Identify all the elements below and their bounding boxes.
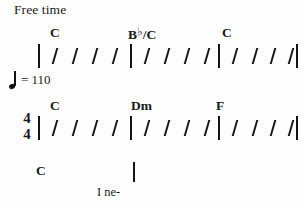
chord-symbol: Dm	[131, 99, 152, 113]
rhythm-slash	[184, 120, 191, 136]
rhythm-slash	[204, 48, 211, 64]
rhythm-slash	[270, 120, 277, 136]
rhythm-slash	[112, 48, 119, 64]
rhythm-slash	[252, 120, 259, 136]
chord-symbol: F	[216, 99, 224, 113]
chord-symbol: C	[36, 164, 46, 178]
rhythm-slash	[164, 120, 171, 136]
rhythm-slash	[232, 48, 239, 64]
quarter-note-icon	[9, 72, 18, 89]
rhythm-slash	[72, 48, 79, 64]
rhythm-slash	[52, 48, 59, 64]
rhythm-slash	[164, 48, 171, 64]
expression-free-time: Free time	[14, 2, 66, 18]
rhythm-slash	[144, 48, 151, 64]
chord-symbol: C	[50, 99, 60, 113]
time-signature: 4 4	[20, 111, 34, 143]
rhythm-slash	[184, 48, 191, 64]
rhythm-slash	[144, 120, 151, 136]
tempo-marking: = 110	[9, 70, 51, 90]
tempo-value: = 110	[21, 73, 51, 87]
rhythm-slash	[288, 120, 295, 136]
barline	[218, 44, 220, 68]
barline	[38, 44, 40, 68]
rhythm-slash	[288, 48, 295, 64]
rhythm-slash	[92, 48, 99, 64]
rhythm-slash	[72, 120, 79, 136]
end-barline	[296, 116, 298, 140]
barline	[133, 162, 135, 182]
rhythm-slash	[92, 120, 99, 136]
chord-symbol: C	[50, 26, 60, 40]
barline	[38, 116, 40, 140]
rhythm-slash	[204, 120, 211, 136]
rhythm-slash	[270, 48, 277, 64]
time-signature-numerator: 4	[20, 111, 34, 127]
chord-symbol: B♭/C	[128, 26, 156, 41]
end-barline	[296, 44, 298, 68]
time-signature-denominator: 4	[20, 127, 34, 143]
rhythm-slash	[232, 120, 239, 136]
barline	[218, 116, 220, 140]
rhythm-slash	[112, 120, 119, 136]
rhythm-slash	[52, 120, 59, 136]
chord-symbol: C	[222, 26, 232, 40]
barline	[130, 44, 132, 68]
lyric-syllable: I ne-	[97, 186, 120, 199]
rhythm-slash	[252, 48, 259, 64]
barline	[130, 116, 132, 140]
lead-sheet-page: Free time = 110 4 4 CB♭/CCCDmFC I ne-	[0, 0, 307, 208]
